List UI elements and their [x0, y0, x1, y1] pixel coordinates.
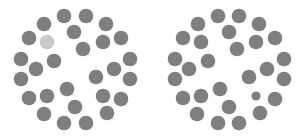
dot[interactable]: [194, 89, 209, 104]
dot[interactable]: [277, 52, 292, 67]
dot[interactable]: [57, 9, 72, 24]
dot[interactable]: [253, 106, 268, 121]
dot[interactable]: [37, 17, 52, 32]
dot[interactable]: [40, 35, 55, 50]
dot[interactable]: [68, 100, 83, 115]
dot[interactable]: [242, 70, 257, 85]
dot[interactable]: [123, 72, 138, 87]
dot[interactable]: [37, 107, 52, 122]
dot[interactable]: [211, 116, 226, 131]
dot[interactable]: [47, 54, 62, 69]
dot[interactable]: [222, 25, 237, 40]
dot[interactable]: [57, 116, 72, 131]
dot[interactable]: [213, 82, 228, 97]
dot[interactable]: [79, 9, 94, 24]
dot[interactable]: [76, 42, 91, 57]
dot[interactable]: [268, 31, 283, 46]
dot[interactable]: [96, 89, 111, 104]
dot[interactable]: [252, 17, 267, 32]
dot[interactable]: [22, 31, 37, 46]
dot[interactable]: [232, 116, 247, 131]
dot[interactable]: [14, 72, 29, 87]
dot[interactable]: [22, 91, 37, 106]
dot[interactable]: [99, 17, 114, 32]
dot[interactable]: [190, 107, 205, 122]
dot-puzzle-canvas: [0, 0, 305, 139]
dot[interactable]: [222, 100, 237, 115]
left-panel: [14, 9, 138, 131]
dot[interactable]: [89, 70, 104, 85]
dot[interactable]: [194, 35, 209, 50]
dot[interactable]: [251, 91, 260, 100]
dot[interactable]: [176, 31, 191, 46]
puzzle-stage: [0, 0, 305, 139]
dot[interactable]: [201, 54, 216, 69]
dot[interactable]: [191, 17, 206, 32]
dot[interactable]: [114, 31, 129, 46]
dot[interactable]: [114, 92, 129, 107]
dot[interactable]: [249, 35, 264, 50]
dot[interactable]: [168, 52, 183, 67]
dot[interactable]: [176, 91, 191, 106]
dot[interactable]: [211, 9, 226, 24]
dot[interactable]: [277, 72, 292, 87]
dot[interactable]: [232, 9, 247, 24]
dot[interactable]: [29, 62, 44, 77]
dot[interactable]: [60, 82, 75, 97]
dot[interactable]: [67, 25, 82, 40]
dot[interactable]: [230, 42, 245, 57]
dot[interactable]: [100, 106, 115, 121]
right-panel: [168, 9, 292, 131]
dot[interactable]: [182, 62, 197, 77]
dot[interactable]: [96, 35, 111, 50]
dot[interactable]: [14, 52, 29, 67]
dot[interactable]: [107, 62, 122, 77]
dot[interactable]: [260, 62, 275, 77]
dot[interactable]: [168, 72, 183, 87]
dot[interactable]: [40, 89, 55, 104]
dot[interactable]: [268, 92, 283, 107]
dot[interactable]: [79, 116, 94, 131]
dot[interactable]: [123, 52, 138, 67]
